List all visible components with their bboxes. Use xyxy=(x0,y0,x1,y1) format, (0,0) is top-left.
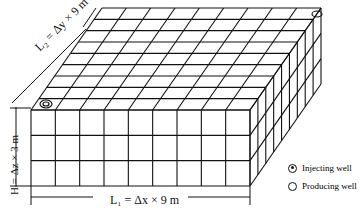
injecting-well-icon xyxy=(40,100,52,108)
legend-item-injecting: Injecting well xyxy=(288,163,352,173)
l1-label: L₁ = Δx × 9 m xyxy=(110,193,179,208)
legend-label: Injecting well xyxy=(302,163,352,173)
legend-item-producing: Producing well xyxy=(288,181,357,191)
producing-well-icon xyxy=(288,182,297,191)
legend-label: Producing well xyxy=(302,181,357,191)
h-label: H = Δz × 3 m xyxy=(8,135,20,195)
injecting-well-icon xyxy=(288,164,297,173)
